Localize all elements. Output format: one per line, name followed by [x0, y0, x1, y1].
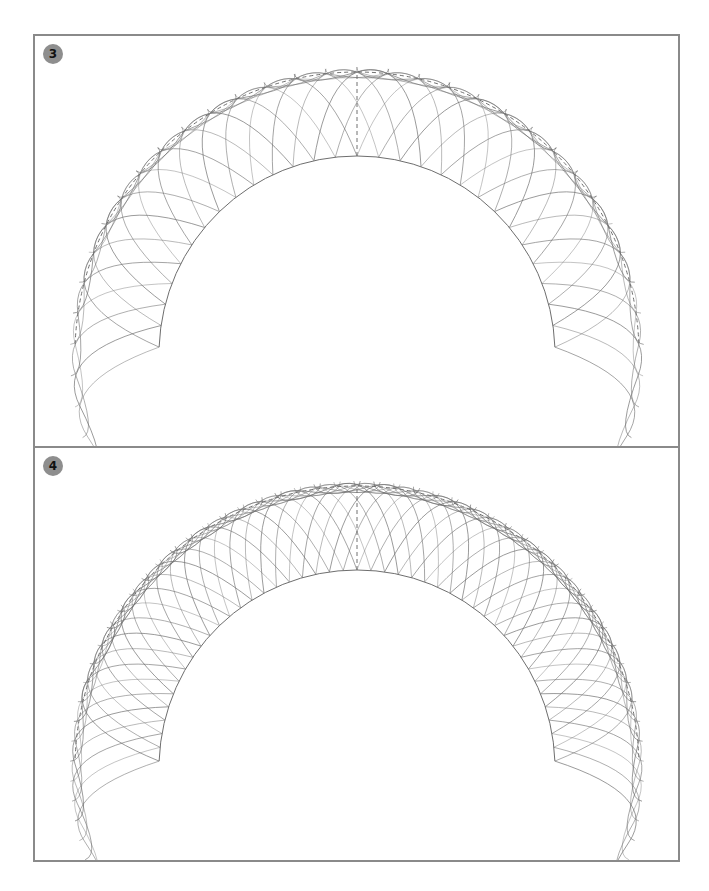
strand-curve: [419, 74, 512, 212]
strand-curve: [513, 633, 640, 721]
strand-curve: [207, 78, 357, 156]
strand-curve: [74, 326, 161, 447]
inner-arc: [159, 156, 555, 347]
strand-curve: [121, 546, 177, 694]
strand-curve: [78, 618, 210, 702]
strand-curve: [230, 484, 321, 608]
strand-curve: [554, 747, 639, 860]
arch-construction-drawing: [35, 36, 678, 446]
strand-curve: [202, 74, 295, 212]
strand-curve: [73, 707, 169, 821]
strand-curve: [325, 69, 442, 175]
strand-curve: [294, 483, 411, 577]
strand-group: [70, 481, 644, 860]
arch-construction-drawing: [35, 448, 678, 860]
strand-curve: [157, 99, 314, 161]
strand-curve: [73, 215, 205, 313]
strand-curve: [79, 192, 219, 283]
strand-curve: [460, 149, 612, 224]
strand-curve: [421, 113, 578, 172]
strand-curve: [75, 747, 160, 860]
strand-curve: [505, 109, 575, 264]
strand-curve: [552, 734, 641, 860]
strand-curve: [132, 534, 193, 681]
strand-curve: [537, 546, 593, 694]
strand-curve: [293, 70, 420, 167]
strand-curve: [549, 304, 642, 437]
strand-curve: [264, 70, 400, 161]
strand-curve: [102, 149, 254, 224]
strand-curve: [121, 127, 183, 284]
strand-curve: [504, 618, 636, 702]
strand-curve: [294, 70, 421, 167]
strand-curve: [495, 192, 635, 283]
strand-curve: [136, 113, 293, 172]
strand-curve: [334, 482, 439, 587]
strand-curve: [533, 262, 643, 376]
strand-curve: [549, 147, 608, 304]
strand-curve: [139, 109, 209, 264]
strand-curve: [545, 707, 641, 821]
strand-curve: [509, 215, 641, 313]
strand-curve: [357, 78, 507, 156]
strand-curve: [158, 94, 236, 245]
strand-curve: [553, 326, 640, 447]
strand-curve: [72, 304, 165, 437]
strand-curve: [400, 99, 556, 161]
strand-curve: [71, 262, 181, 376]
strand-curve: [394, 484, 485, 608]
strand-curve: [505, 523, 570, 669]
strand-curve: [478, 94, 556, 245]
strand-curve: [74, 633, 201, 721]
strand-curve: [302, 483, 419, 577]
strand-curve: [272, 69, 389, 175]
panel-4: 4: [33, 446, 680, 862]
panel-3: 3: [33, 34, 680, 448]
strand-curve: [449, 82, 535, 227]
inner-arc: [159, 570, 555, 761]
strand-curve: [179, 82, 265, 227]
strand-group: [70, 67, 643, 446]
strand-curve: [276, 482, 381, 587]
strand-curve: [521, 534, 582, 681]
strand-curve: [531, 127, 593, 284]
strand-curve: [144, 523, 209, 669]
strand-curve: [73, 734, 162, 860]
strand-curve: [314, 70, 450, 161]
strand-curve: [106, 147, 165, 304]
